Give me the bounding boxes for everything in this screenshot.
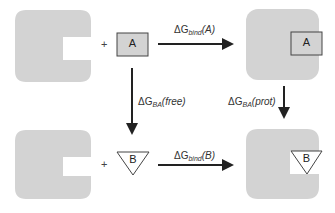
free-protein-bottom	[15, 130, 91, 199]
free-protein-top	[15, 10, 91, 82]
label-bind-a: ΔGbind(A)	[174, 24, 215, 36]
label-ba-prot: ΔGBA(prot)	[228, 96, 276, 108]
bound-ligand-b-label: B	[291, 152, 322, 164]
label-bind-b: ΔGbind(B)	[174, 150, 215, 162]
bound-ligand-a-label: A	[291, 36, 322, 48]
ligand-a-label: A	[117, 37, 148, 49]
plus-sign-top: +	[101, 38, 107, 50]
plus-sign-bottom: +	[101, 158, 107, 170]
label-ba-free: ΔGBA(free)	[138, 96, 186, 108]
ligand-b-label: B	[117, 153, 149, 165]
